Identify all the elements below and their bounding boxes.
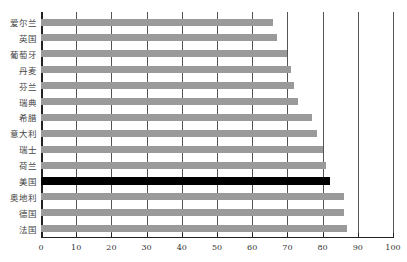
- x-tick-label: 10: [71, 243, 81, 252]
- bar-0: [41, 19, 273, 26]
- gridline-30: [147, 12, 148, 237]
- gridline-80: [323, 12, 324, 237]
- x-tick-label: 60: [247, 243, 257, 252]
- category-label: 美国: [19, 175, 37, 187]
- gridline-60: [252, 12, 253, 237]
- gridline-10: [76, 12, 77, 237]
- category-label: 德国: [19, 207, 37, 219]
- bar-4: [41, 82, 294, 89]
- bar-1: [41, 34, 277, 41]
- x-tick-label: 40: [177, 243, 187, 252]
- x-tick-label: 0: [38, 243, 43, 252]
- bar-3: [41, 66, 291, 73]
- gridline-100: [393, 12, 394, 237]
- bar-11: [41, 193, 344, 200]
- x-tick-label: 20: [106, 243, 116, 252]
- gridline-20: [111, 12, 112, 237]
- bar-8: [41, 146, 323, 153]
- category-label: 瑞士: [19, 143, 37, 155]
- category-label: 奥地利: [10, 191, 37, 203]
- x-tick-label: 30: [142, 243, 152, 252]
- x-tick-label: 90: [353, 243, 363, 252]
- chart-title-clipped: [70, 0, 200, 3]
- category-label: 葡萄牙: [10, 48, 37, 60]
- category-label: 芬兰: [19, 80, 37, 92]
- bar-9: [41, 162, 326, 169]
- category-label: 希腊: [19, 111, 37, 123]
- bar-2: [41, 50, 287, 57]
- category-label: 荷兰: [19, 159, 37, 171]
- x-tick-label: 100: [385, 243, 400, 252]
- category-label: 法国: [19, 223, 37, 235]
- bar-7: [41, 130, 317, 137]
- bar-6: [41, 114, 312, 121]
- gridline-0: [41, 12, 43, 237]
- gridline-40: [182, 12, 183, 237]
- category-label: 英国: [19, 32, 37, 44]
- bar-13: [41, 225, 347, 232]
- category-label: 意大利: [10, 127, 37, 139]
- category-label: 瑞典: [19, 96, 37, 108]
- bar-12: [41, 209, 344, 216]
- category-label: 丹麦: [19, 64, 37, 76]
- gridline-70: [287, 12, 288, 237]
- x-tick-label: 80: [318, 243, 328, 252]
- x-tick-label: 70: [282, 243, 292, 252]
- category-label: 爱尔兰: [10, 16, 37, 28]
- bar-10: [41, 177, 330, 185]
- x-axis-line: [41, 237, 394, 238]
- gridline-90: [358, 12, 359, 237]
- gridline-50: [217, 12, 218, 237]
- bar-5: [41, 98, 298, 105]
- x-tick-label: 50: [212, 243, 222, 252]
